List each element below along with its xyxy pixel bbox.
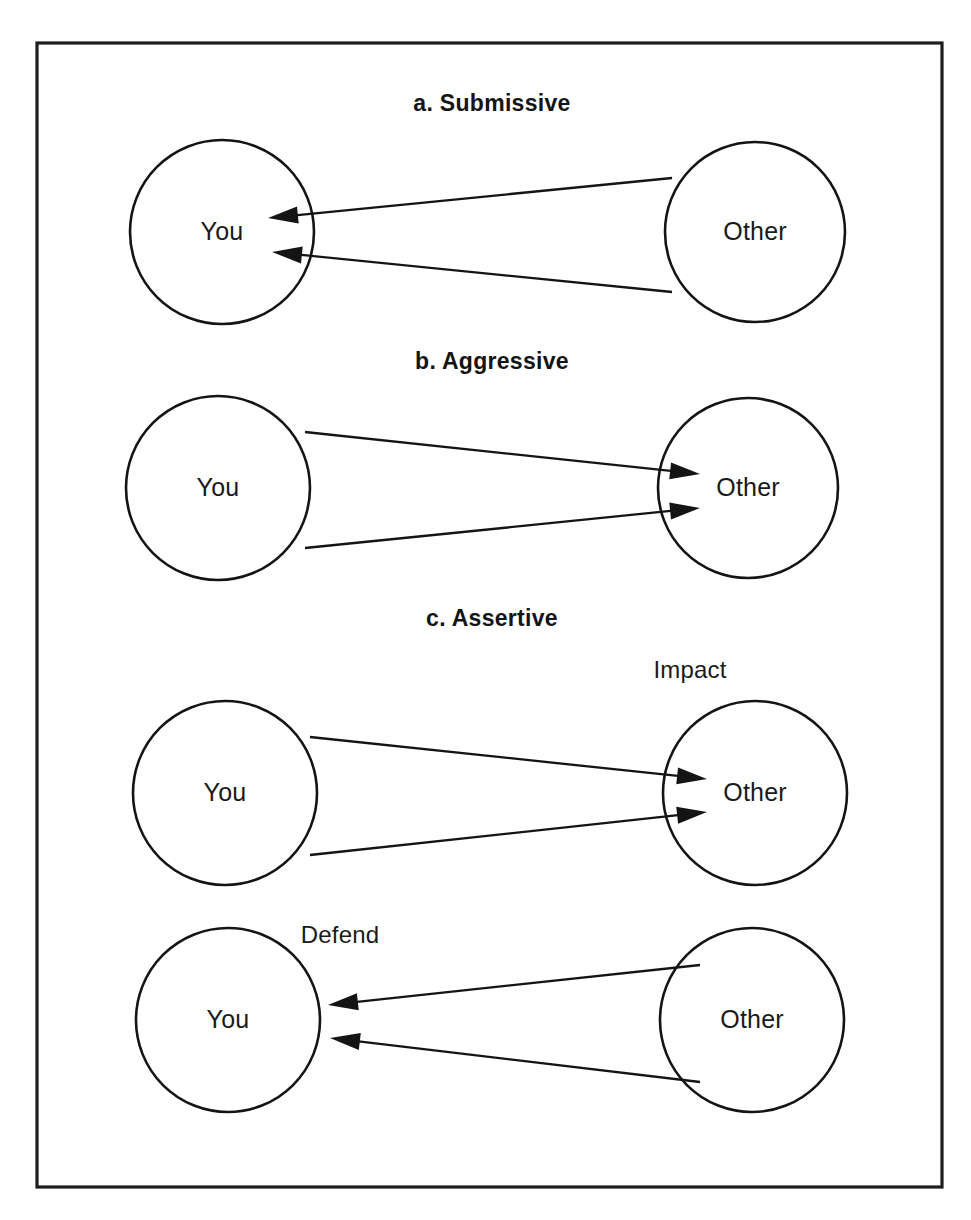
arrow-shaft-b-0 [305, 432, 676, 471]
node-label-you-b: You [197, 473, 240, 501]
arrow-shaft-d-0 [352, 965, 700, 1002]
arrow-shaft-c-1 [310, 815, 683, 855]
node-label-you-c: You [204, 778, 247, 806]
flow-label-impact: Impact [653, 656, 726, 683]
node-label-other-a: Other [723, 217, 787, 245]
arrow-shaft-a-0 [292, 178, 672, 216]
panel-c: c. AssertiveImpactYouOther [133, 605, 847, 885]
panels-layer: a. SubmissiveYouOtherb. AggressiveYouOth… [126, 90, 847, 1112]
arrow-shaft-a-1 [296, 254, 672, 292]
panel-b: b. AggressiveYouOther [126, 348, 838, 580]
diagram-canvas: a. SubmissiveYouOtherb. AggressiveYouOth… [0, 0, 971, 1220]
panel-a: a. SubmissiveYouOther [130, 90, 845, 324]
node-label-you-a: You [201, 217, 244, 245]
arrow-head-d-0 [328, 993, 359, 1010]
panel-heading-c: c. Assertive [426, 605, 558, 631]
node-label-other-c: Other [723, 778, 787, 806]
node-label-other-d: Other [720, 1005, 784, 1033]
assertiveness-figure: a. SubmissiveYouOtherb. AggressiveYouOth… [0, 0, 971, 1220]
node-label-other-b: Other [716, 473, 780, 501]
arrow-head-d-1 [330, 1033, 361, 1050]
arrow-shaft-d-1 [354, 1041, 700, 1082]
node-label-you-d: You [207, 1005, 250, 1033]
panel-heading-a: a. Submissive [413, 90, 570, 116]
panel-d: DefendYouOther [136, 921, 844, 1112]
flow-label-defend: Defend [301, 921, 380, 948]
arrow-shaft-b-1 [305, 510, 676, 548]
panel-heading-b: b. Aggressive [415, 348, 569, 374]
arrow-shaft-c-0 [310, 737, 683, 776]
